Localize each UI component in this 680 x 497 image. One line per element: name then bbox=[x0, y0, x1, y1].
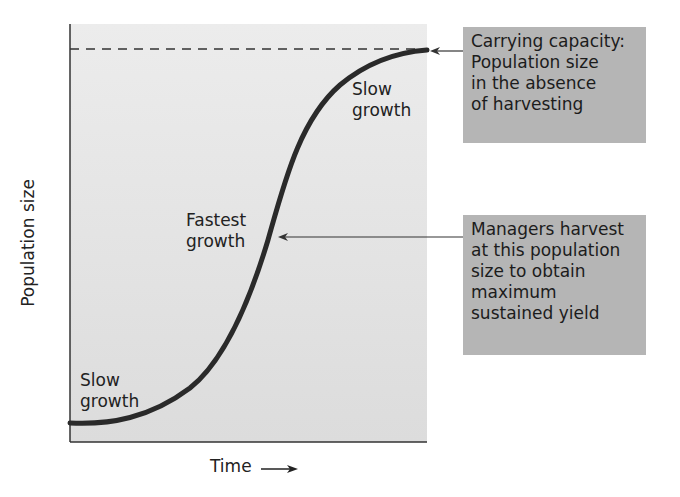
slow-growth-high-label: Slow growth bbox=[352, 79, 411, 121]
label-line: growth bbox=[352, 100, 411, 121]
x-axis-label: Time bbox=[210, 456, 252, 476]
fastest-growth-label: Fastest growth bbox=[186, 210, 246, 252]
callout-line: in the absence bbox=[471, 73, 638, 94]
callout-line: maximum bbox=[471, 282, 638, 303]
label-line: Fastest bbox=[186, 210, 246, 231]
slow-growth-low-label: Slow growth bbox=[80, 370, 139, 412]
carrying-capacity-callout: Carrying capacity: Population size in th… bbox=[463, 27, 646, 143]
callout-line: of harvesting bbox=[471, 94, 638, 115]
y-axis-label: Population size bbox=[18, 143, 38, 343]
max-sustained-yield-callout: Managers harvest at this population size… bbox=[463, 215, 646, 355]
callout-line: Population size bbox=[471, 52, 638, 73]
label-line: growth bbox=[186, 231, 246, 252]
label-line: Slow bbox=[80, 370, 139, 391]
callout-line: sustained yield bbox=[471, 303, 638, 324]
callout-line: Carrying capacity: bbox=[471, 31, 638, 52]
callout-line: Managers harvest bbox=[471, 219, 638, 240]
label-line: growth bbox=[80, 391, 139, 412]
label-line: Slow bbox=[352, 79, 411, 100]
callout-line: at this population bbox=[471, 240, 638, 261]
callout-line: size to obtain bbox=[471, 261, 638, 282]
